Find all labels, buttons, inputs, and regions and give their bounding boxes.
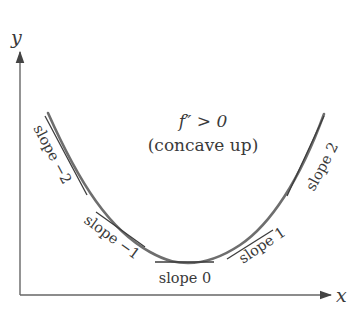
concavity-title: f″ > 0 (concave up) bbox=[148, 111, 259, 155]
concave-up-caption: (concave up) bbox=[148, 135, 259, 155]
x-axis-label: x bbox=[336, 284, 347, 306]
slope-2-label: slope 2 bbox=[303, 140, 342, 194]
slope-neg1-label: slope −1 bbox=[81, 211, 143, 262]
concavity-diagram: y x f″ > 0 (concave up) slope −2 slope −… bbox=[0, 0, 362, 322]
second-derivative-condition: f″ > 0 bbox=[177, 111, 228, 131]
slope-0-label: slope 0 bbox=[159, 270, 212, 286]
slope-1-label: slope 1 bbox=[236, 224, 288, 267]
y-axis-label: y bbox=[10, 26, 22, 48]
